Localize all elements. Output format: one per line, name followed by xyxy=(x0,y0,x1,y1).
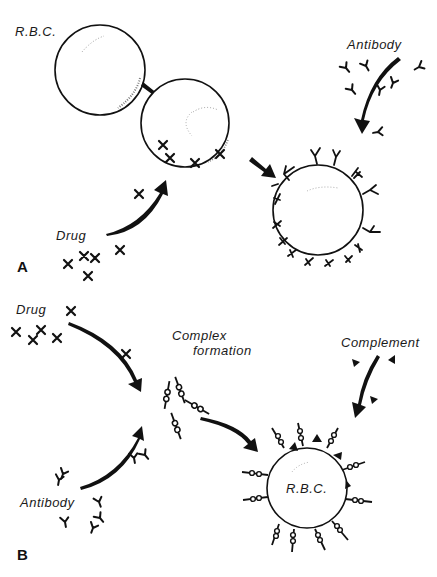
complement-molecules xyxy=(312,355,395,442)
curved-arrow-icon xyxy=(200,417,258,452)
free-antibodies-b xyxy=(54,449,151,534)
curved-arrow-icon xyxy=(68,322,142,392)
label-antibody-b: Antibody xyxy=(20,495,75,510)
label-rbc-a: R.B.C. xyxy=(15,24,56,39)
label-complex-line2: formation xyxy=(193,343,252,358)
rbc-cell-a3-coated xyxy=(272,148,380,266)
panel-label-b: B xyxy=(17,546,28,563)
label-complement: Complement xyxy=(341,335,420,350)
rbc-cell-a2 xyxy=(141,79,229,167)
label-drug-b: Drug xyxy=(16,302,46,317)
label-complex-line1: Complex xyxy=(172,328,227,343)
label-drug-a: Drug xyxy=(56,228,86,243)
curved-arrow-icon xyxy=(354,57,401,134)
label-antibody-a: Antibody xyxy=(347,37,402,52)
panel-label-a: A xyxy=(17,258,28,275)
rbc-cell-a1 xyxy=(55,25,145,115)
arrow-icon xyxy=(249,157,276,178)
immune-complexes xyxy=(162,376,210,440)
free-antibodies-a xyxy=(340,60,426,137)
diagram-canvas xyxy=(0,0,437,577)
label-rbc-b: R.B.C. xyxy=(286,481,327,496)
curved-arrow-icon xyxy=(106,180,168,236)
